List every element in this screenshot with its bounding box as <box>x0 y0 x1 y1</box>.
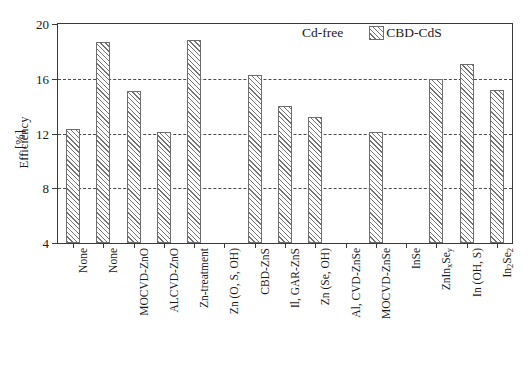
legend-item-cd-free: Cd-free <box>300 25 343 41</box>
x-axis-label: None <box>77 248 89 273</box>
bar[interactable] <box>460 64 474 243</box>
bar-slot <box>88 24 118 243</box>
bar[interactable] <box>429 79 443 243</box>
y-axis-tick-label: 16 <box>36 72 49 85</box>
y-axis-tick <box>52 243 58 244</box>
legend: Cd-free CBD-CdS <box>300 25 442 41</box>
efficiency-bar-chart: Efficiency [%] 48121620 NoneNoneMOCVD-Zn… <box>0 0 530 365</box>
bars-layer <box>58 24 512 243</box>
bar-slot <box>421 24 451 243</box>
bar-slot <box>300 24 330 243</box>
bar[interactable] <box>127 91 141 243</box>
y-axis-tick-label: 12 <box>36 127 49 140</box>
bar-slot <box>391 24 421 243</box>
y-axis-title: Efficiency [%] <box>2 88 48 208</box>
bar-slot <box>330 24 360 243</box>
x-axis-label: MOCVD-ZnO <box>138 248 150 316</box>
bar[interactable] <box>369 132 383 243</box>
x-axis-label: CBD-ZnS <box>259 248 271 295</box>
bar[interactable] <box>308 117 322 243</box>
x-axis-label: InSe <box>410 248 422 269</box>
y-axis-unit-text: [%] <box>13 110 28 170</box>
bar-slot <box>270 24 300 243</box>
legend-item-cbd-cds: CBD-CdS <box>369 25 442 41</box>
x-axis-label: Zn (Se, OH) <box>319 248 331 305</box>
bar-slot <box>209 24 239 243</box>
x-axis-label: Al, CVD-ZnSe <box>350 248 362 318</box>
bar[interactable] <box>66 129 80 243</box>
y-axis-tick-label: 8 <box>43 182 50 195</box>
y-axis-tick-label: 4 <box>43 237 50 250</box>
x-axis-label: ZnInxSey <box>440 248 453 290</box>
bar-slot <box>179 24 209 243</box>
y-axis-tick-label: 20 <box>36 18 49 31</box>
x-axis-label: Il, GAR-ZnS <box>289 248 301 308</box>
bar[interactable] <box>248 75 262 243</box>
bar[interactable] <box>187 40 201 243</box>
x-axis-label: MOCVD-ZnSe <box>380 248 392 319</box>
legend-label-cbd-cds: CBD-CdS <box>386 25 442 41</box>
x-axis-labels: NoneNoneMOCVD-ZnOALCVD-ZnOZn-treatmentZn… <box>57 248 513 363</box>
x-axis-label: None <box>107 248 119 273</box>
x-axis-label: In2Se2 <box>501 248 514 278</box>
legend-label-cd-free: Cd-free <box>302 25 343 41</box>
x-axis-label: ALCVD-ZnO <box>168 248 180 313</box>
x-axis-label: Zn (O, S, OH) <box>228 248 240 314</box>
plot-area: 48121620 <box>57 23 513 244</box>
bar-slot <box>149 24 179 243</box>
bar[interactable] <box>278 106 292 243</box>
x-axis-label: In (OH, S) <box>471 248 483 297</box>
legend-swatch-cbd-cds <box>369 26 384 40</box>
bar-slot <box>451 24 481 243</box>
bar-slot <box>119 24 149 243</box>
bar[interactable] <box>490 90 504 243</box>
bar[interactable] <box>157 132 171 243</box>
bar-slot <box>58 24 88 243</box>
x-axis-label: Zn-treatment <box>198 248 210 308</box>
bar[interactable] <box>96 42 110 243</box>
bar-slot <box>240 24 270 243</box>
bar-slot <box>361 24 391 243</box>
bar-slot <box>482 24 512 243</box>
